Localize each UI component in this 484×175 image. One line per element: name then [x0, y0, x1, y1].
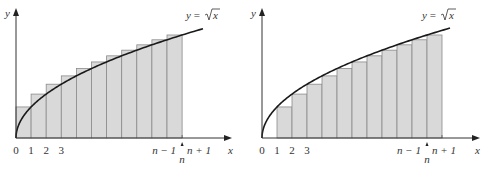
- bar: [16, 107, 31, 138]
- curve-label-x: x: [448, 9, 454, 21]
- tick-label: 2: [43, 144, 49, 156]
- bar: [382, 50, 397, 138]
- figure: yxy = x0123n − 1nn + 1yxy = x0123n − 1nn…: [0, 0, 484, 175]
- bar: [76, 69, 91, 138]
- n-marker-arrow-icon: [426, 142, 429, 146]
- tick-label: 1: [28, 144, 34, 156]
- tick-label: 1: [274, 144, 280, 156]
- x-axis-arrow-icon: [224, 135, 232, 141]
- tick-label: 0: [259, 144, 265, 156]
- x-axis-arrow-icon: [472, 135, 480, 141]
- bar: [427, 35, 442, 138]
- bar: [397, 45, 412, 138]
- y-axis-label: y: [250, 7, 256, 19]
- curve-label-x: x: [212, 9, 218, 21]
- bar: [322, 76, 337, 138]
- bar: [167, 35, 182, 138]
- bar: [92, 62, 107, 138]
- bar: [152, 40, 167, 138]
- y-axis-label: y: [4, 7, 10, 19]
- bar: [277, 107, 292, 138]
- tick-label-n: n: [424, 153, 430, 165]
- tick-label: 3: [304, 144, 310, 156]
- curve-label: y =: [421, 9, 436, 21]
- tick-label: 0: [13, 144, 19, 156]
- n-marker-arrow-icon: [181, 142, 184, 146]
- bar: [412, 40, 427, 138]
- bar: [292, 94, 307, 138]
- tick-label-n-minus-1: n − 1: [397, 144, 421, 156]
- bar: [367, 56, 382, 138]
- tick-label: 2: [289, 144, 295, 156]
- x-axis-label: x: [474, 144, 480, 156]
- riemann-sum-figures: yxy = x0123n − 1nn + 1yxy = x0123n − 1nn…: [0, 0, 484, 175]
- tick-label-n-plus-1: n + 1: [432, 144, 456, 156]
- bar: [122, 50, 137, 138]
- y-axis-arrow-icon: [13, 8, 19, 16]
- bar: [352, 62, 367, 138]
- bar: [337, 69, 352, 138]
- bar: [61, 76, 76, 138]
- chart-upper-sum: yxy = x0123n − 1nn + 1: [4, 7, 233, 165]
- tick-label-n-plus-1: n + 1: [187, 144, 211, 156]
- bar: [107, 56, 122, 138]
- chart-lower-sum: yxy = x0123n − 1nn + 1: [250, 7, 480, 165]
- x-axis-label: x: [227, 144, 233, 156]
- tick-label-n: n: [179, 153, 185, 165]
- bar: [307, 84, 322, 138]
- curve-label: y =: [185, 9, 200, 21]
- tick-label-n-minus-1: n − 1: [152, 144, 176, 156]
- tick-label: 3: [59, 144, 65, 156]
- y-axis-arrow-icon: [259, 8, 265, 16]
- bar: [137, 45, 152, 138]
